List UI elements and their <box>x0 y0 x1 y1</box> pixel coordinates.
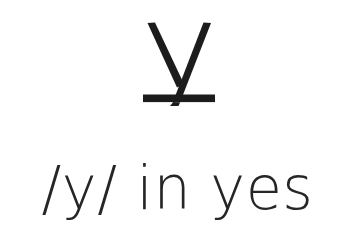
y-with-stroke-glyph <box>133 18 225 118</box>
phonics-flashcard: /y/ in yes <box>0 0 355 243</box>
phoneme-label: /y/ in yes <box>4 158 352 218</box>
y-with-stroke-icon <box>133 18 225 118</box>
